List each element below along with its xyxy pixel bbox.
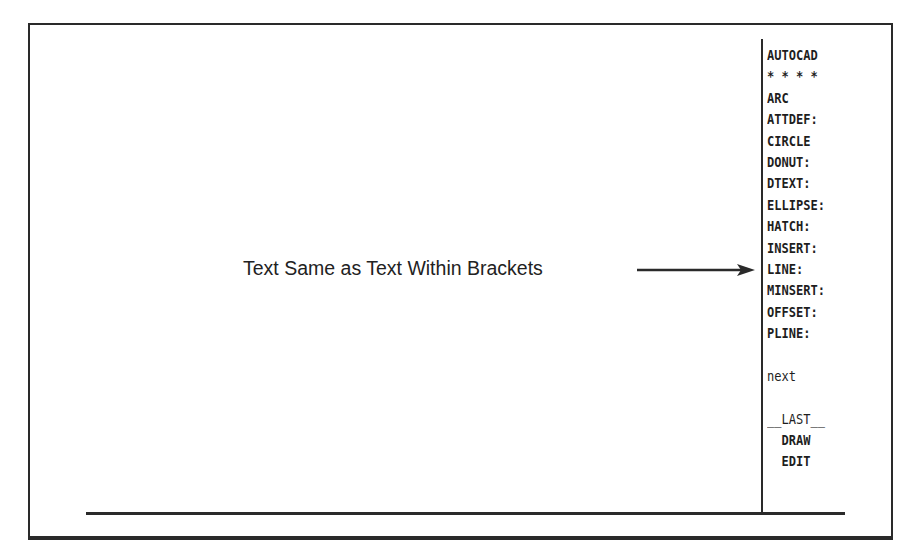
menu-item-last[interactable]: __LAST__ (767, 409, 870, 430)
menu-item-offset[interactable]: OFFSET: (767, 302, 870, 323)
arrow-right-icon (637, 262, 757, 278)
menu-item-draw[interactable]: DRAW (767, 430, 870, 451)
menu-spacer (767, 344, 870, 365)
menu-item-pline[interactable]: PLINE: (767, 323, 870, 344)
menu-item-edit[interactable]: EDIT (767, 451, 870, 472)
menu-item-donut[interactable]: DONUT: (767, 152, 870, 173)
menu-item-insert[interactable]: INSERT: (767, 238, 870, 259)
screen-menu-divider (761, 39, 763, 514)
menu-item-separator[interactable]: * * * * (767, 66, 870, 87)
menu-item-ellipse[interactable]: ELLIPSE: (767, 195, 870, 216)
menu-item-circle[interactable]: CIRCLE (767, 131, 870, 152)
menu-item-line[interactable]: LINE: (767, 259, 870, 280)
menu-item-arc[interactable]: ARC (767, 88, 870, 109)
menu-item-next[interactable]: next (767, 366, 870, 387)
screen-menu: AUTOCAD * * * * ARC ATTDEF: CIRCLE DONUT… (767, 45, 870, 473)
menu-item-attdef[interactable]: ATTDEF: (767, 109, 870, 130)
command-line-divider (86, 512, 845, 515)
annotation-label: Text Same as Text Within Brackets (243, 257, 543, 280)
menu-item-minsert[interactable]: MINSERT: (767, 280, 870, 301)
menu-item-dtext[interactable]: DTEXT: (767, 173, 870, 194)
menu-item-autocad[interactable]: AUTOCAD (767, 45, 870, 66)
menu-spacer (767, 387, 870, 408)
menu-item-hatch[interactable]: HATCH: (767, 216, 870, 237)
